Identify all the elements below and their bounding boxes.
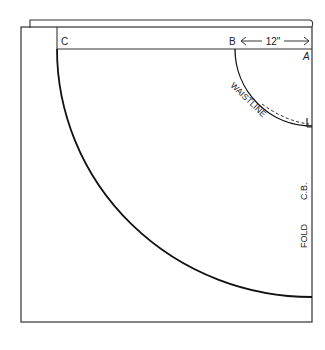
point-c-label: C	[61, 36, 68, 47]
dimension-label: 12"	[266, 36, 281, 47]
waistline-label: WAISTLINE	[229, 80, 269, 119]
center-back-label: C.B.	[299, 182, 309, 200]
fold-label: FOLD	[299, 223, 309, 248]
point-b-label: B	[229, 36, 236, 47]
front-sheet-outline	[21, 27, 312, 322]
hem-curve	[57, 49, 312, 297]
pattern-diagram: 12" C B A WAISTLINE C.B. FOLD	[0, 0, 325, 350]
waistline-curve	[235, 49, 312, 126]
point-a-label: A	[302, 51, 310, 62]
